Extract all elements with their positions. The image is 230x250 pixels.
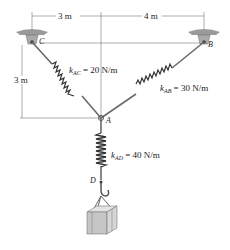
- point-label-B: B: [208, 41, 213, 49]
- diagram-canvas: [0, 0, 230, 250]
- hook: [101, 182, 109, 196]
- dimension-label-4m-horizontal: 4 m: [144, 12, 158, 21]
- spring-label-AD: kAD = 40 N/m: [111, 151, 160, 161]
- spring-AD: [96, 133, 106, 167]
- crate: [87, 206, 117, 234]
- point-label-D: D: [90, 177, 96, 185]
- dimension-label-3m-vertical: 3 m: [14, 76, 28, 85]
- point-label-A: A: [106, 117, 111, 125]
- point-label-C: C: [39, 38, 44, 46]
- spring-label-AB: kAB = 30 N/m: [160, 84, 208, 94]
- spring-label-AC: kAC = 20 N/m: [69, 66, 118, 76]
- spring-AB: [136, 64, 172, 84]
- dimension-label-3m-horizontal: 3 m: [58, 12, 72, 21]
- support-B: [188, 29, 220, 44]
